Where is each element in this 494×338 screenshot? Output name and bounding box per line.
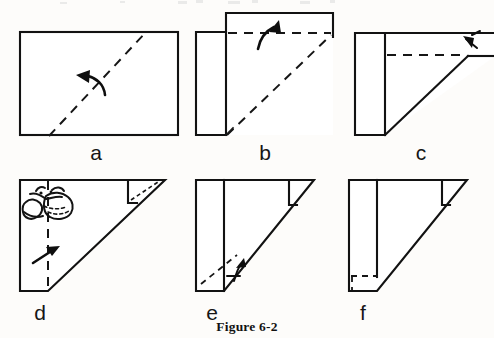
figure-container: a b <box>0 0 494 338</box>
panel-c-left-paper <box>355 33 385 135</box>
figure-6-2-illustration: a b <box>0 0 494 338</box>
panel-a-label: a <box>90 141 102 164</box>
panel-f-label: f <box>360 301 366 324</box>
panel-d-label: d <box>34 301 46 324</box>
figure-caption: Figure 6-2 <box>216 319 277 334</box>
panel-b-left-paper <box>196 32 226 135</box>
panel-b-label: b <box>259 141 271 164</box>
panel-c-label: c <box>416 141 427 164</box>
